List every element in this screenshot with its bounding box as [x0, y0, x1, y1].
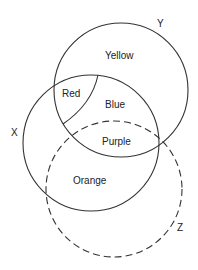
red-blue-divider: [63, 75, 98, 124]
venn-diagram: Y X Z Yellow Red Blue Purple Orange: [0, 0, 198, 270]
region-purple: Purple: [102, 136, 131, 147]
region-red: Red: [62, 88, 80, 99]
label-z: Z: [177, 222, 183, 233]
region-yellow: Yellow: [105, 50, 134, 61]
region-blue: Blue: [105, 99, 125, 110]
label-x: X: [11, 127, 18, 138]
circle-x: [23, 75, 159, 211]
region-orange: Orange: [73, 175, 107, 186]
label-y: Y: [157, 18, 164, 29]
